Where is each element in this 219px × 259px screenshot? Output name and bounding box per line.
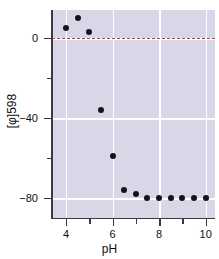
gridline-vertical <box>113 10 115 218</box>
y-axis-title: [φ]598 <box>5 68 19 154</box>
data-point <box>191 195 197 201</box>
x-tick-minor <box>89 219 90 224</box>
data-point <box>63 25 69 31</box>
y-tick-label: −40 <box>19 112 38 124</box>
data-point <box>98 107 104 113</box>
y-tick-major <box>44 38 52 39</box>
y-tick-major <box>44 198 52 199</box>
x-axis-title: pH <box>0 242 219 256</box>
y-tick-minor <box>47 78 53 79</box>
y-tick-label: 0 <box>32 32 38 44</box>
gridline-horizontal <box>52 118 215 120</box>
gridline-vertical <box>66 10 68 218</box>
x-tick-label: 10 <box>200 228 212 240</box>
data-point <box>156 195 162 201</box>
data-point <box>203 195 209 201</box>
x-axis-line <box>51 218 215 220</box>
y-tick-label: −80 <box>19 192 38 204</box>
x-tick-label: 6 <box>109 228 115 240</box>
data-point <box>179 195 185 201</box>
gridline-vertical <box>159 10 161 218</box>
zero-reference-line <box>52 38 215 39</box>
x-tick-minor <box>182 219 183 224</box>
x-tick-major <box>66 219 67 226</box>
x-tick-major <box>113 219 114 226</box>
data-point <box>144 195 150 201</box>
y-tick-minor <box>47 158 53 159</box>
x-tick-label: 8 <box>156 228 162 240</box>
x-tick-label: 4 <box>63 228 69 240</box>
x-tick-major <box>159 219 160 226</box>
x-tick-major <box>206 219 207 226</box>
data-point <box>168 195 174 201</box>
x-tick-minor <box>136 219 137 224</box>
data-point <box>110 153 116 159</box>
data-point <box>75 15 81 21</box>
y-tick-major <box>44 118 52 119</box>
chart-figure: 0−40−80 46810 [φ]598 pH <box>0 0 219 259</box>
data-point <box>86 29 92 35</box>
gridline-vertical <box>206 10 208 218</box>
data-point <box>133 191 139 197</box>
plot-panel <box>52 10 215 218</box>
y-axis-line <box>51 10 53 219</box>
data-point <box>121 187 127 193</box>
